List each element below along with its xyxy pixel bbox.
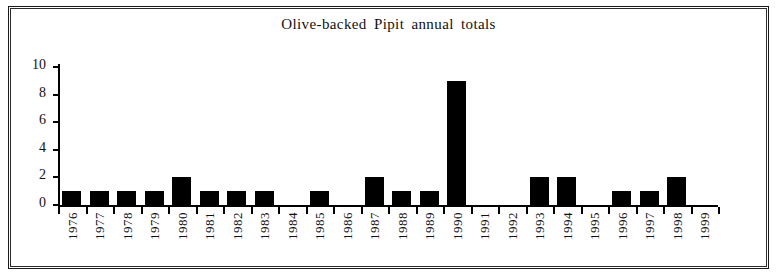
bar — [227, 191, 246, 205]
bar — [392, 191, 411, 205]
bar — [172, 177, 191, 205]
x-axis-label: 1984 — [285, 212, 301, 240]
bar — [420, 191, 439, 205]
x-axis-label: 1980 — [175, 212, 191, 240]
x-axis-label: 1992 — [505, 212, 521, 240]
bar — [667, 177, 686, 205]
y-axis-tick-label: 0 — [20, 195, 46, 211]
x-axis-label: 1996 — [615, 212, 631, 240]
x-axis-label: 1993 — [532, 212, 548, 240]
x-axis-label: 1999 — [697, 212, 713, 240]
y-axis-tick-label: 4 — [20, 140, 46, 156]
chart-title: Olive-backed Pipit annual totals — [0, 16, 777, 33]
bar — [62, 191, 81, 205]
x-axis-label: 1976 — [65, 212, 81, 240]
x-axis-label: 1985 — [312, 212, 328, 240]
bar — [117, 191, 136, 205]
x-axis-label: 1978 — [120, 212, 136, 240]
x-axis-label: 1995 — [587, 212, 603, 240]
bar — [255, 191, 274, 205]
x-axis-label: 1982 — [230, 212, 246, 240]
x-axis-label: 1977 — [92, 212, 108, 240]
x-axis-tick — [718, 207, 720, 214]
bar — [612, 191, 631, 205]
x-axis-label: 1981 — [202, 212, 218, 240]
bar — [145, 191, 164, 205]
bar — [200, 191, 219, 205]
bar — [310, 191, 329, 205]
x-axis-label: 1979 — [147, 212, 163, 240]
bar — [557, 177, 576, 205]
y-axis-tick-label: 2 — [20, 167, 46, 183]
y-axis-tick-label: 10 — [20, 57, 46, 73]
plot-area: 0246810 — [58, 67, 718, 205]
x-axis-label: 1998 — [670, 212, 686, 240]
y-axis-tick-label: 6 — [20, 112, 46, 128]
bar — [365, 177, 384, 205]
x-axis-label: 1983 — [257, 212, 273, 240]
x-axis-label: 1988 — [395, 212, 411, 240]
bar-series — [58, 67, 718, 205]
bar — [90, 191, 109, 205]
bar — [530, 177, 549, 205]
x-axis-label: 1997 — [642, 212, 658, 240]
y-axis-tick-label: 8 — [20, 85, 46, 101]
x-axis-labels: 1976197719781979198019811982198319841985… — [58, 212, 718, 270]
x-axis-label: 1991 — [477, 212, 493, 240]
bar — [447, 81, 466, 205]
x-axis-label: 1990 — [450, 212, 466, 240]
x-axis-label: 1987 — [367, 212, 383, 240]
x-axis-label: 1986 — [340, 212, 356, 240]
x-axis-label: 1994 — [560, 212, 576, 240]
bar — [640, 191, 659, 205]
chart-figure: Olive-backed Pipit annual totals 0246810… — [0, 0, 777, 277]
x-axis-label: 1989 — [422, 212, 438, 240]
